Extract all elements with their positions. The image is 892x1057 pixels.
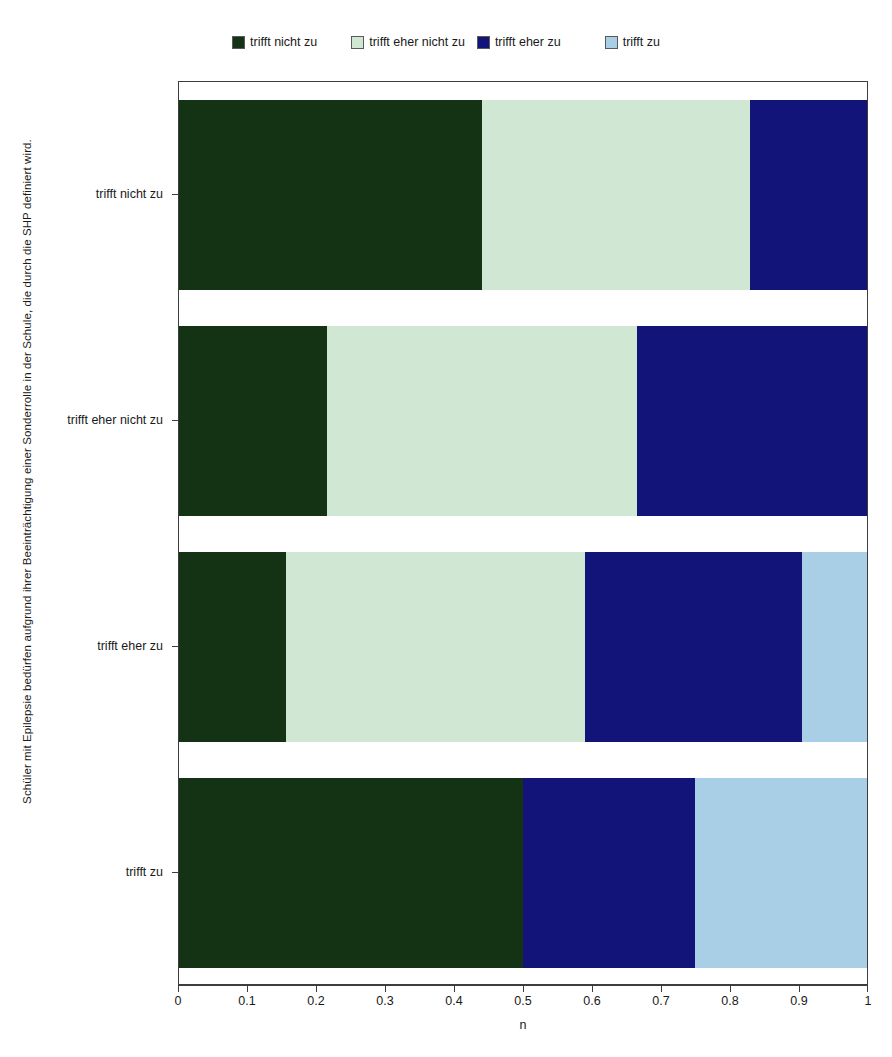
x-axis-tick-label: 0.4 <box>445 995 462 1008</box>
bar-segment <box>286 552 585 742</box>
x-axis-tick-mark <box>385 985 386 992</box>
bar-segment <box>327 326 637 516</box>
x-axis-tick-label: 0.2 <box>307 995 324 1008</box>
bar-segment <box>482 100 750 290</box>
legend-item-trifft-zu: trifft zu <box>605 36 660 49</box>
y-axis-tick-label: trifft zu <box>126 866 172 879</box>
x-axis-tick-label: 0.1 <box>238 995 255 1008</box>
x-axis-tick-mark <box>867 985 868 992</box>
bar-row <box>179 552 867 742</box>
bar-segment <box>695 778 867 968</box>
x-axis-tick-mark <box>523 985 524 992</box>
bar-segment <box>179 100 482 290</box>
x-axis-tick-label: 0.3 <box>376 995 393 1008</box>
x-axis: 00.10.20.30.40.50.60.70.80.91 <box>178 985 868 1015</box>
bar-segment <box>179 552 286 742</box>
bar-segment <box>637 326 867 516</box>
x-axis-tick-label: 1 <box>865 995 872 1008</box>
bar-segment <box>179 326 327 516</box>
x-axis-tick-label: 0 <box>175 995 182 1008</box>
bar-row <box>179 778 867 968</box>
legend-swatch-icon <box>351 36 364 49</box>
legend-item-label: trifft eher nicht zu <box>369 36 465 49</box>
bar-segment <box>585 552 802 742</box>
x-axis-tick-mark <box>730 985 731 992</box>
bar-segment <box>802 552 867 742</box>
y-axis-tick-label: trifft nicht zu <box>96 188 172 201</box>
y-axis-tick-labels: trifft nicht zutrifft eher nicht zutriff… <box>0 81 172 985</box>
x-axis-tick-label: 0.5 <box>514 995 531 1008</box>
legend-item-label: trifft zu <box>623 36 660 49</box>
x-axis-tick-label: 0.9 <box>790 995 807 1008</box>
x-axis-tick-mark <box>247 985 248 992</box>
legend-swatch-icon <box>477 36 490 49</box>
x-axis-tick-mark <box>592 985 593 992</box>
x-axis-tick-mark <box>178 985 179 992</box>
y-axis-tick-label: trifft eher zu <box>97 640 172 653</box>
plot-area <box>178 81 868 985</box>
x-axis-tick-mark <box>661 985 662 992</box>
legend-item-label: trifft nicht zu <box>250 36 317 49</box>
legend-swatch-icon <box>605 36 618 49</box>
bar-row <box>179 326 867 516</box>
x-axis-tick-mark <box>316 985 317 992</box>
bar-segment <box>750 100 867 290</box>
legend-item-trifft-nicht-zu: trifft nicht zu <box>232 36 317 49</box>
legend-item-trifft-eher-nicht-zu: trifft eher nicht zu <box>351 36 465 49</box>
stacked-bars <box>179 82 867 984</box>
x-axis-tick-mark <box>454 985 455 992</box>
x-axis-tick-mark <box>799 985 800 992</box>
y-axis-tick-label: trifft eher nicht zu <box>67 414 172 427</box>
x-axis-tick-label: 0.8 <box>721 995 738 1008</box>
x-axis-tick-label: 0.7 <box>652 995 669 1008</box>
legend-item-trifft-eher-zu: trifft eher zu <box>477 36 561 49</box>
bar-row <box>179 100 867 290</box>
legend-item-label: trifft eher zu <box>495 36 561 49</box>
bar-segment <box>179 778 523 968</box>
chart-legend: trifft nicht zu trifft eher nicht zu tri… <box>0 28 892 56</box>
x-axis-tick-label: 0.6 <box>583 995 600 1008</box>
legend-swatch-icon <box>232 36 245 49</box>
bar-segment <box>523 778 695 968</box>
x-axis-title: n <box>178 1018 868 1032</box>
